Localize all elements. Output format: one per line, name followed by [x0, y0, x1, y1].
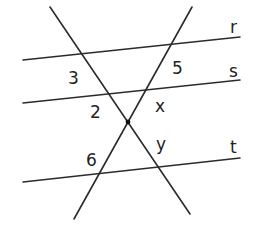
angle-2-label: 2 [90, 102, 101, 122]
line-r [23, 37, 240, 60]
transversal-a [50, 7, 190, 214]
angle-6-label: 6 [86, 150, 97, 170]
line-t [23, 158, 240, 182]
label-s: s [229, 61, 238, 81]
intersection-point [126, 120, 131, 125]
angle-5-label: 5 [172, 58, 183, 78]
angle-x-label: x [155, 96, 165, 116]
angle-3-label: 3 [68, 68, 79, 88]
line-s [23, 80, 240, 103]
parallel-lines-diagram: ) r s t 3 5 2 x 6 y [0, 0, 255, 229]
label-r: r [230, 17, 237, 37]
part-label-fragment: ) [0, 8, 1, 28]
angle-y-label: y [156, 134, 166, 154]
label-t: t [230, 137, 237, 157]
